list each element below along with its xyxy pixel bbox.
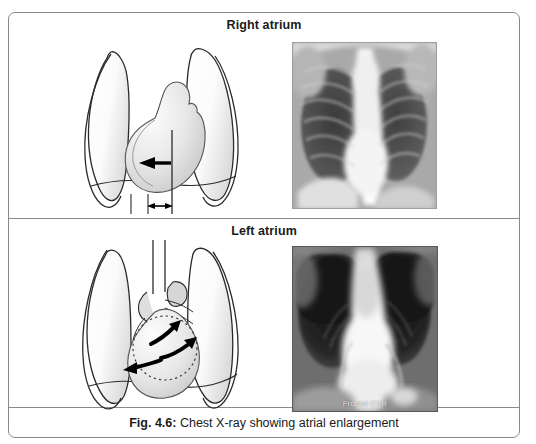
aortic-knob	[167, 282, 187, 307]
figure-frame: Right atrium	[8, 12, 520, 438]
measurement-double-arrow	[147, 203, 173, 209]
figure-caption-text: Chest X-ray showing atrial enlargement	[180, 416, 399, 430]
panel-body-right-atrium	[9, 32, 519, 237]
figure-caption-row: Fig. 4.6: Chest X-ray showing atrial enl…	[9, 408, 519, 438]
trachea	[153, 240, 165, 294]
lung-left-outline	[88, 52, 128, 201]
chest-xray-left-atrium: Frontal CXR	[292, 246, 438, 412]
figure-caption-label: Fig. 4.6:	[129, 416, 176, 430]
chest-diagram-right-atrium	[69, 36, 269, 226]
chest-xray-right-atrium	[292, 42, 437, 209]
panel-left-atrium: Left atrium	[9, 219, 519, 408]
figure-caption: Fig. 4.6: Chest X-ray showing atrial enl…	[129, 416, 399, 430]
cxr-label: Frontal CXR	[292, 399, 438, 408]
panel-title-left-atrium: Left atrium	[9, 219, 519, 238]
lung-left-outline	[87, 250, 131, 403]
chest-diagram-left-atrium	[69, 240, 269, 415]
panel-right-atrium: Right atrium	[9, 13, 519, 219]
panel-body-left-atrium: Frontal CXR	[9, 238, 519, 426]
panel-title-right-atrium: Right atrium	[9, 13, 519, 32]
